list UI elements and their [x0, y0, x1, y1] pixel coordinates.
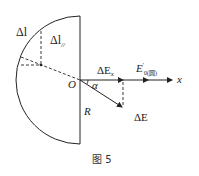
figure-caption: 图 5	[92, 154, 112, 165]
e0-arrowhead	[143, 77, 149, 83]
label-delta-e: ΔE	[134, 111, 148, 123]
label-origin: O	[68, 78, 76, 90]
label-delta-l: Δl	[16, 25, 28, 39]
element-point	[40, 64, 43, 67]
alpha-angle-arc	[87, 80, 88, 84]
label-delta-l-parallel: Δl//	[50, 33, 66, 49]
delta-e-vector	[80, 80, 122, 107]
label-e0: E′0(圆)	[135, 62, 157, 77]
label-radius: R	[83, 105, 91, 117]
label-alpha: α	[92, 79, 98, 91]
label-x-axis: x	[176, 73, 182, 85]
label-delta-ex: ΔEx	[97, 64, 115, 78]
dashed-radius	[21, 57, 80, 80]
semicircle-field-diagram: Δl Δl// O α R ΔEx E′0(圆) x ΔE 图 5	[0, 0, 199, 176]
